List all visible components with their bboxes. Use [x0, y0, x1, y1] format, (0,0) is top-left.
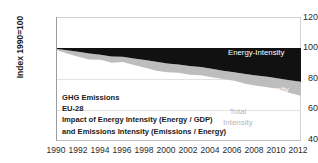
note-line-ghg-emissions: GHG Emissions	[62, 92, 226, 103]
note-line-impact-emissions-intensity: and Emissions Intensity (Emissions / Ene…	[62, 126, 226, 137]
note-line-region: EU-28	[62, 103, 226, 114]
chart-root: Index 1990=100 120 100 80 60 40 Energy-I…	[0, 0, 318, 163]
series-label-total-intensity: Total Intensity	[223, 107, 253, 128]
total-intensity-line2: Intensity	[223, 118, 253, 129]
note-line-impact-energy-intensity: Impact of Energy Intensity (Energy / GDP…	[62, 114, 226, 125]
series-label-energy-intensity: Energy-Intensity	[228, 48, 284, 57]
total-intensity-line1: Total	[223, 107, 253, 118]
chart-note-block: GHG Emissions EU-28 Impact of Energy Int…	[62, 92, 226, 137]
series-label-emissions-intensity: Emissions Intensity	[222, 85, 289, 94]
y-axis-title: Index 1990=100	[15, 0, 25, 95]
y-axis-line	[56, 17, 57, 141]
x-tick-2012: 2012	[283, 146, 313, 155]
